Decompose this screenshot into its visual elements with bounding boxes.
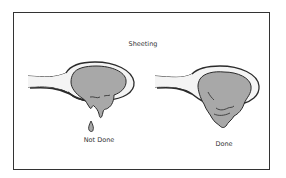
spoon-not-done-illustration bbox=[28, 62, 134, 132]
spoon-illustrations bbox=[0, 0, 286, 178]
label-not-done: Not Done bbox=[59, 136, 139, 144]
label-done: Done bbox=[184, 140, 264, 148]
spoon-done-illustration bbox=[155, 66, 259, 128]
